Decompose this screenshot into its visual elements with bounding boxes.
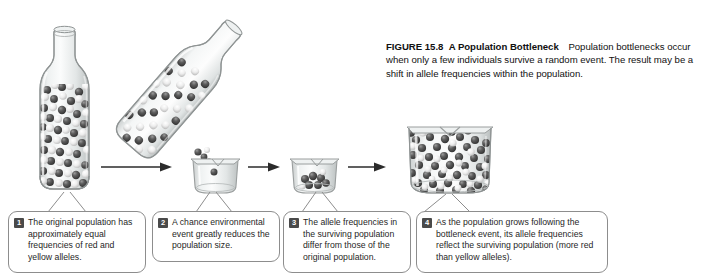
arrow-stage2-to-stage3: [248, 163, 280, 172]
step-badge-1: 1: [14, 218, 24, 228]
figure-title: A Population Bottleneck: [449, 41, 559, 52]
figure-caption: FIGURE 15.8 A Population Bottleneck Popu…: [386, 40, 698, 80]
vessel-bottle-tilted-pouring: [110, 8, 254, 172]
step-text-2: A chance environmental event greatly red…: [172, 217, 273, 252]
step-badge-4: 4: [422, 218, 432, 228]
callout-step-2[interactable]: 2 A chance environmental event greatly r…: [152, 211, 280, 262]
step-text-3: The allele frequencies in the surviving …: [303, 217, 404, 263]
step-text-1: The original population has approximatel…: [28, 217, 139, 263]
vessel-beaker-few-marbles: [290, 159, 339, 193]
figure-label: FIGURE 15.8: [386, 41, 443, 52]
callout-leader-lines: [48, 192, 470, 212]
arrow-stage1-to-stage2: [101, 163, 172, 172]
vessel-beaker-receiving: [191, 159, 240, 193]
step-badge-2: 2: [158, 218, 168, 228]
step-badge-3: 3: [289, 218, 299, 228]
step-text-4: As the population grows following the bo…: [436, 217, 601, 263]
arrow-stage3-to-stage4: [348, 163, 386, 172]
callout-step-4[interactable]: 4 As the population grows following the …: [416, 211, 608, 273]
figure-population-bottleneck: FIGURE 15.8 A Population Bottleneck Popu…: [0, 0, 707, 280]
callout-step-3[interactable]: 3 The allele frequencies in the survivin…: [283, 211, 411, 273]
vessel-bottle-upright: [38, 26, 91, 189]
callout-step-1[interactable]: 1 The original population has approximat…: [8, 211, 146, 273]
vessel-beaker-regrown-population: [407, 127, 493, 195]
